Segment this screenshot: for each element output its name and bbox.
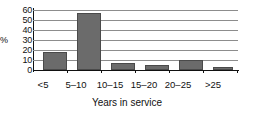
bar-lt5 — [43, 52, 67, 70]
x-tick-label-gt25: >25 — [196, 80, 230, 90]
x-tick-mark-5 — [203, 70, 204, 73]
gridline-20 — [33, 50, 238, 51]
y-tick-label-50: 50 — [12, 16, 32, 25]
x-tick-label-20-25: 20–25 — [159, 80, 197, 90]
gridline-30 — [33, 40, 238, 41]
y-tick-label-60: 60 — [12, 6, 32, 15]
gridline-40 — [33, 30, 238, 31]
x-tick-mark-2 — [101, 70, 102, 73]
y-tick-label-20: 20 — [12, 46, 32, 55]
bar-10-15 — [111, 63, 135, 70]
x-tick-label-5-10: 5–10 — [58, 80, 94, 90]
x-tick-label-10-15: 10–15 — [91, 80, 129, 90]
plot-area — [33, 10, 238, 70]
bar-gt25 — [213, 67, 233, 70]
bar-20-25 — [179, 60, 203, 70]
y-tick-label-40: 40 — [12, 26, 32, 35]
y-tick-label-0: 0 — [12, 66, 32, 75]
y-tick-label-10: 10 — [12, 56, 32, 65]
x-tick-mark-3 — [135, 70, 136, 73]
gridline-50 — [33, 20, 238, 21]
x-tick-label-15-20: 15–20 — [125, 80, 163, 90]
bar-5-10 — [77, 13, 101, 70]
x-axis-line — [33, 70, 239, 71]
y-axis-title: % — [0, 36, 10, 45]
y-tick-label-30: 30 — [12, 36, 32, 45]
x-axis-title: Years in service — [0, 97, 254, 108]
gridline-60 — [33, 10, 238, 11]
x-tick-mark-4 — [169, 70, 170, 73]
x-tick-mark-1 — [67, 70, 68, 73]
bar-chart-figure: 60 50 40 30 20 10 0 % <5 5–10 — [0, 0, 254, 118]
x-tick-mark-6 — [237, 70, 238, 73]
x-tick-label-lt5: <5 — [26, 80, 60, 90]
bar-15-20 — [145, 65, 169, 70]
